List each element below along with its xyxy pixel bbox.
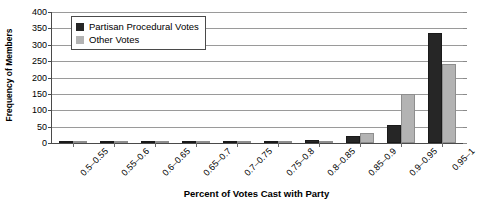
legend-item: Partisan Procedural Votes — [76, 20, 199, 33]
x-tick-label: 0.6–0.65 — [133, 144, 174, 188]
y-tick-mark-right — [463, 45, 467, 46]
legend-swatch-icon — [76, 36, 84, 44]
y-tick-label: 350 — [32, 24, 47, 33]
y-tick-label: 100 — [32, 106, 47, 115]
x-tick-label: 0.8–0.85 — [298, 144, 339, 188]
y-tick-label: 200 — [32, 73, 47, 82]
x-axis-title: Percent of Votes Cast with Party — [51, 188, 462, 199]
x-tick-label: 0.7–0.75 — [215, 144, 256, 188]
bar — [360, 133, 374, 143]
bar — [428, 33, 442, 143]
x-tick-label: 0.9–0.95 — [380, 144, 421, 188]
legend-label: Partisan Procedural Votes — [89, 22, 199, 32]
bar-group — [257, 12, 298, 143]
legend-swatch-icon — [76, 23, 84, 31]
y-tick-label: 300 — [32, 40, 47, 49]
y-tick-mark-right — [463, 12, 467, 13]
x-axis-tick-labels: 0.5–0.550.55–0.60.6–0.650.65–0.70.7–0.75… — [51, 144, 462, 188]
bar-group — [216, 12, 257, 143]
bar — [319, 141, 333, 143]
bar — [73, 141, 87, 143]
bar — [182, 141, 196, 143]
bar — [305, 140, 319, 143]
bar-chart: Frequency of Members 0501001502002503003… — [0, 0, 479, 210]
bar — [223, 141, 237, 143]
x-tick-label: 0.65–0.7 — [174, 144, 215, 188]
legend: Partisan Procedural VotesOther Votes — [71, 16, 206, 50]
y-tick-label: 250 — [32, 57, 47, 66]
bar — [346, 136, 360, 143]
x-tick-label: 0.75–0.8 — [257, 144, 298, 188]
y-axis-title-text: Frequency of Members — [4, 28, 14, 121]
y-tick-label: 50 — [37, 122, 47, 131]
y-tick-mark-right — [463, 143, 467, 144]
y-tick-mark-right — [463, 110, 467, 111]
bar — [237, 141, 251, 143]
bar — [278, 141, 292, 143]
bar-group — [340, 12, 381, 143]
legend-label: Other Votes — [89, 35, 139, 45]
bar-group — [299, 12, 340, 143]
bar — [264, 141, 278, 143]
y-tick-label: 150 — [32, 89, 47, 98]
y-tick-mark-right — [463, 94, 467, 95]
x-tick-label: 0.95–1 — [421, 144, 462, 188]
bar — [387, 125, 401, 143]
y-tick-mark-right — [463, 78, 467, 79]
y-tick-label: 400 — [32, 8, 47, 17]
bar-group — [381, 12, 422, 143]
y-axis-tick-labels: 050100150200250300350400 — [18, 6, 50, 150]
x-tick-label: 0.5–0.55 — [51, 144, 92, 188]
bar — [59, 141, 73, 143]
y-axis-title: Frequency of Members — [0, 0, 18, 150]
bar — [401, 94, 415, 143]
x-tick-label-text: 0.95–1 — [450, 146, 477, 173]
bar — [442, 64, 456, 143]
y-tick-mark-right — [463, 127, 467, 128]
bar — [114, 141, 128, 143]
y-tick-mark-right — [463, 61, 467, 62]
bar-group — [422, 12, 463, 143]
y-tick-mark-right — [463, 28, 467, 29]
x-tick-label: 0.85–0.9 — [339, 144, 380, 188]
x-tick-label: 0.55–0.6 — [92, 144, 133, 188]
legend-item: Other Votes — [76, 33, 199, 46]
bar — [155, 141, 169, 143]
bar — [100, 141, 114, 143]
y-tick-label: 0 — [42, 139, 47, 148]
bar — [141, 141, 155, 143]
bar — [196, 141, 210, 143]
